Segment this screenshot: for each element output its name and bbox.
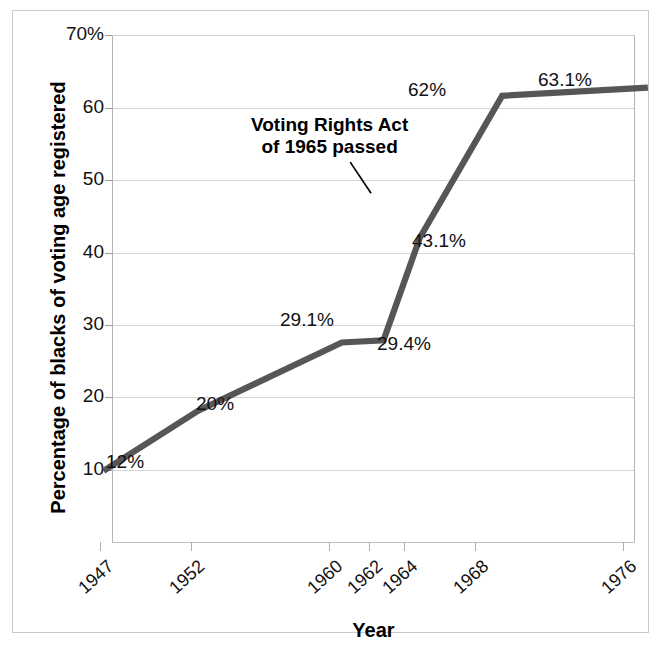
x-tick-mark-1952 [191,542,192,551]
data-label-1962: 29.4% [377,333,431,355]
annotation-line-1: Voting Rights Act [251,114,408,136]
figure-frame: 70% 60 50 40 30 20 10 1947 1952 1960 196… [12,10,649,633]
annotation-line-2: of 1965 passed [251,136,408,158]
y-tick-mark-40 [105,253,112,254]
y-tick-mark-70 [105,35,112,36]
y-tick-mark-20 [105,397,112,398]
y-tick-text-30: 30 [83,313,104,335]
x-tick-mark-1976 [623,542,624,551]
x-axis-title: Year [112,619,635,642]
data-label-1968: 62% [408,79,446,101]
x-tick-mark-1962 [369,542,370,551]
y-tick-text-70: 70% [66,23,104,45]
y-axis-title: Percentage of blacks of voting age regis… [47,68,70,528]
x-tick-mark-1947 [100,542,101,551]
x-tick-mark-1964 [404,542,405,551]
plot-area [112,35,635,542]
data-label-1947: 12% [106,451,144,473]
y-tick-mark-30 [105,325,112,326]
chart-canvas: 70% 60 50 40 30 20 10 1947 1952 1960 196… [0,0,663,645]
y-tick-text-60: 60 [83,96,104,118]
y-tick-text-40: 40 [83,241,104,263]
data-label-1952: 20% [196,393,234,415]
y-tick-mark-50 [105,180,112,181]
data-label-1960: 29.1% [280,309,334,331]
y-tick-text-50: 50 [83,168,104,190]
y-tick-text-10: 10 [83,458,104,480]
y-tick-mark-60 [105,108,112,109]
data-label-1964: 43.1% [412,230,466,252]
data-label-1976: 63.1% [538,69,592,91]
x-tick-mark-1968 [475,542,476,551]
x-tick-label-1947: 1947 [33,556,118,636]
y-tick-text-20: 20 [83,385,104,407]
x-tick-mark-1960 [329,542,330,551]
annotation-voting-rights-act: Voting Rights Act of 1965 passed [251,114,408,159]
